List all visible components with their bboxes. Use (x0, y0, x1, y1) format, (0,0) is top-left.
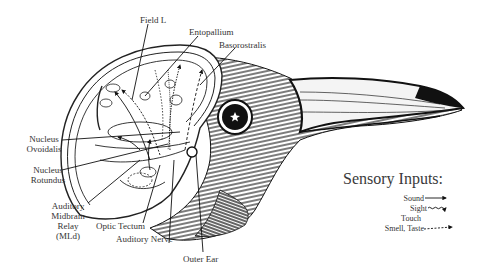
label-line: Ovoidalis (24, 144, 64, 154)
legend-item-sound: Sound (380, 194, 424, 203)
label-entopallium: Entopallium (189, 27, 234, 37)
label-nucleus-ovoidalis: Nucleus Ovoidalis (24, 134, 64, 154)
label-nucleus-rotundus: Nucleus Rotundus (28, 165, 68, 185)
label-line: Rotundus (28, 175, 68, 185)
legend-item-sight: Sight (383, 204, 427, 213)
label-auditory-nerve: Auditory Nerve (116, 234, 173, 244)
eye (218, 100, 252, 134)
legend-title: Sensory Inputs: (343, 170, 443, 188)
outer-ear-opening (187, 147, 197, 157)
label-line: Auditory (48, 201, 88, 211)
label-outer-ear: Outer Ear (183, 254, 218, 264)
label-optic-tectum: Optic Tectum (96, 221, 145, 231)
beak (290, 78, 463, 132)
label-field-l: Field L (140, 15, 166, 25)
label-basorostralis: Basorostralis (219, 40, 266, 50)
legend-lines (424, 198, 452, 229)
legend-item-smell-taste: Smell, Taste (360, 224, 424, 233)
label-line: Relay (48, 221, 88, 231)
label-line: (MLd) (48, 231, 88, 241)
label-line: Nucleus (24, 134, 64, 144)
label-auditory-midbrain-relay: Auditory Midbrain Relay (MLd) (48, 201, 88, 241)
label-line: Nucleus (28, 165, 68, 175)
bird-brain-diagram: Field L Entopallium Basorostralis Nucleu… (0, 0, 481, 267)
legend-item-touch: Touch (377, 214, 421, 223)
label-line: Midbrain (48, 211, 88, 221)
